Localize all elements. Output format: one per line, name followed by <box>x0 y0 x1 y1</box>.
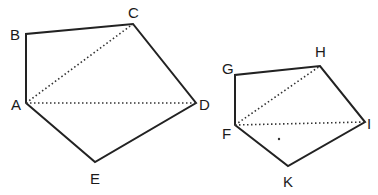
vertex-label-B: B <box>10 26 20 43</box>
vertex-label-A: A <box>11 96 21 113</box>
vertex-label-G: G <box>222 60 234 77</box>
vertex-label-K: K <box>283 173 293 190</box>
vertex-label-F: F <box>222 125 231 142</box>
vertex-label-I: I <box>367 115 371 132</box>
vertex-label-E: E <box>90 170 100 187</box>
vertex-label-D: D <box>199 96 210 113</box>
vertex-label-C: C <box>128 4 139 21</box>
edge-AB-BC-CD-DE-EA <box>26 24 196 162</box>
pentagon-FGHIK: F G H I K <box>222 43 371 190</box>
diagonal-AC <box>26 24 133 103</box>
pentagon-ABCDE: A B C D E <box>10 4 210 187</box>
interior-dot <box>278 138 280 140</box>
vertex-label-H: H <box>315 43 326 60</box>
edge-FG-GH-HI-IK-KF <box>235 66 365 166</box>
diagonal-FH <box>235 66 320 125</box>
diagonal-FI <box>235 122 365 125</box>
similar-pentagons-diagram: A B C D E F G H I K <box>0 0 378 195</box>
